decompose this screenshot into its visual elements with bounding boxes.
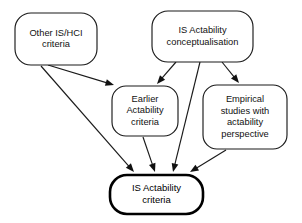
node-other-is-hci-criteria[interactable]: Other IS/HCIcriteria <box>15 13 97 65</box>
node-label-earlier-actability-criteria: Actability <box>126 105 164 115</box>
node-label-earlier-actability-criteria: Earlier <box>132 94 159 104</box>
node-label-empirical-studies: actability <box>227 117 264 127</box>
arrowhead-icon <box>231 74 239 83</box>
arrowhead-icon <box>105 79 114 86</box>
edge-conceptualisation-to-empirical <box>222 62 239 83</box>
node-label-is-actability-criteria: criteria <box>142 194 171 205</box>
node-empirical-studies[interactable]: Empiricalstudies withactabilityperspecti… <box>203 85 287 149</box>
edge-empirical-to-result <box>190 150 226 172</box>
node-is-actability-criteria[interactable]: IS Actabilitycriteria <box>110 175 203 214</box>
node-earlier-actability-criteria[interactable]: EarlierActabilitycriteria <box>112 86 178 136</box>
node-is-actability-conceptualisation[interactable]: IS Actabilityconceptualisation <box>152 11 253 62</box>
arrowhead-icon <box>190 165 199 172</box>
edge-conceptualisation-to-earlier <box>157 62 176 84</box>
node-label-is-actability-criteria: IS Actability <box>132 182 181 193</box>
node-label-empirical-studies: Empirical <box>226 94 264 104</box>
node-layer: Other IS/HCIcriteriaIS Actabilityconcept… <box>15 11 287 214</box>
node-label-is-actability-conceptualisation: IS Actability <box>178 25 226 35</box>
node-label-is-actability-conceptualisation: conceptualisation <box>167 37 239 47</box>
node-label-other-is-hci-criteria: criteria <box>42 39 71 49</box>
node-label-earlier-actability-criteria: criteria <box>131 117 160 127</box>
node-label-empirical-studies: perspective <box>221 129 269 139</box>
edge-other-to-earlier <box>48 65 114 86</box>
arrowhead-icon <box>149 163 155 172</box>
diagram-root: Other IS/HCIcriteriaIS Actabilityconcept… <box>0 0 302 223</box>
node-label-other-is-hci-criteria: Other IS/HCI <box>29 28 82 38</box>
flow-diagram-canvas: Other IS/HCIcriteriaIS Actabilityconcept… <box>0 0 302 223</box>
node-label-empirical-studies: studies with <box>221 106 270 116</box>
arrowhead-icon <box>172 163 179 172</box>
edge-earlier-to-result <box>143 137 155 172</box>
